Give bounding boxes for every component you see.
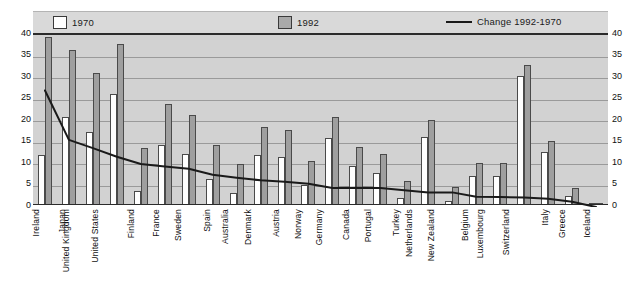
- bar-1970[interactable]: [565, 196, 572, 204]
- bar-1970[interactable]: [278, 157, 285, 204]
- bar-group[interactable]: [201, 35, 225, 204]
- x-axis-tick-label: Turkey: [391, 209, 401, 236]
- bar-1970[interactable]: [589, 203, 596, 204]
- bar-1970[interactable]: [421, 137, 428, 204]
- bar-1992[interactable]: [213, 145, 220, 204]
- bar-1992[interactable]: [452, 187, 459, 204]
- legend-item-1992[interactable]: 1992: [278, 16, 319, 29]
- bar-1992[interactable]: [332, 117, 339, 204]
- x-axis-tick[interactable]: Sweden: [177, 207, 201, 289]
- x-axis-tick-label: Germany: [314, 209, 324, 245]
- bar-group[interactable]: [440, 35, 464, 204]
- bar-group[interactable]: [368, 35, 392, 204]
- legend-item-1970[interactable]: 1970: [53, 16, 94, 29]
- bar-1992[interactable]: [237, 164, 244, 204]
- bar-group[interactable]: [488, 35, 512, 204]
- bar-1992[interactable]: [45, 37, 52, 204]
- bar-1970[interactable]: [182, 154, 189, 204]
- bar-1992[interactable]: [404, 181, 411, 204]
- legend-item-change[interactable]: Change 1992-1970: [446, 16, 562, 27]
- bar-1970[interactable]: [469, 176, 476, 204]
- bar-1970[interactable]: [373, 173, 380, 204]
- bar-group[interactable]: [153, 35, 177, 204]
- bar-group[interactable]: [273, 35, 297, 204]
- bar-1992[interactable]: [165, 104, 172, 204]
- x-axis-tick[interactable]: United States: [105, 207, 129, 289]
- x-axis-tick[interactable]: Italy: [536, 207, 560, 289]
- bar-1970[interactable]: [517, 76, 524, 204]
- bar-1970[interactable]: [541, 152, 548, 204]
- bar-1970[interactable]: [397, 198, 404, 204]
- bar-1992[interactable]: [428, 120, 435, 204]
- x-axis-tick[interactable]: Portugal: [368, 207, 392, 289]
- y-axis-tick-label: 20: [612, 115, 622, 124]
- bar-group[interactable]: [177, 35, 201, 204]
- bar-1992[interactable]: [117, 44, 124, 204]
- bar-1992[interactable]: [572, 188, 579, 204]
- bar-1970[interactable]: [134, 191, 141, 204]
- y-axis-tick-label: 30: [21, 72, 31, 81]
- white-box-swatch-icon: [53, 16, 67, 29]
- x-axis-tick[interactable]: Iceland: [584, 207, 608, 289]
- bar-1992[interactable]: [285, 130, 292, 204]
- bar-1970[interactable]: [301, 185, 308, 204]
- y-axis-tick-label: 30: [612, 72, 622, 81]
- bar-1970[interactable]: [206, 179, 213, 204]
- bar-group[interactable]: [33, 35, 57, 204]
- bar-group[interactable]: [464, 35, 488, 204]
- x-axis-tick[interactable]: Greece: [560, 207, 584, 289]
- y-axis-tick-label: 25: [612, 93, 622, 102]
- bar-1970[interactable]: [86, 132, 93, 204]
- bar-group[interactable]: [584, 35, 608, 204]
- bar-1970[interactable]: [158, 145, 165, 204]
- bar-1992[interactable]: [356, 147, 363, 204]
- bar-group[interactable]: [320, 35, 344, 204]
- chart-legend: 1970 1992 Change 1992-1970: [33, 11, 608, 34]
- bar-group[interactable]: [344, 35, 368, 204]
- y-axis-tick-label: 15: [612, 136, 622, 145]
- bar-1992[interactable]: [524, 65, 531, 204]
- bar-1970[interactable]: [325, 138, 332, 204]
- bar-1970[interactable]: [38, 155, 45, 204]
- bar-1970[interactable]: [493, 176, 500, 204]
- bar-group[interactable]: [249, 35, 273, 204]
- y-axis-left: 0510152025303540: [5, 33, 31, 205]
- bar-group[interactable]: [81, 35, 105, 204]
- bar-1992[interactable]: [261, 127, 268, 204]
- bar-1992[interactable]: [548, 141, 555, 204]
- bar-group[interactable]: [392, 35, 416, 204]
- bar-1970[interactable]: [349, 166, 356, 204]
- bar-group[interactable]: [105, 35, 129, 204]
- x-axis-tick-label: New Zealand: [426, 209, 436, 261]
- x-axis-tick[interactable]: Finland: [129, 207, 153, 289]
- bar-1992[interactable]: [308, 161, 315, 204]
- bar-1970[interactable]: [230, 193, 237, 204]
- bar-group[interactable]: [536, 35, 560, 204]
- bar-1970[interactable]: [110, 94, 117, 204]
- bar-1970[interactable]: [445, 201, 452, 204]
- bar-1992[interactable]: [380, 154, 387, 204]
- bar-1992[interactable]: [476, 163, 483, 204]
- bar-group[interactable]: [512, 35, 536, 204]
- bar-1992[interactable]: [596, 203, 603, 204]
- y-axis-tick-label: 15: [21, 136, 31, 145]
- bar-1992[interactable]: [93, 73, 100, 204]
- x-axis-tick[interactable]: Switzerland: [512, 207, 536, 289]
- x-axis-tick[interactable]: Denmark: [249, 207, 273, 289]
- x-axis-tick[interactable]: Ireland: [33, 207, 57, 289]
- bar-group[interactable]: [129, 35, 153, 204]
- bar-1992[interactable]: [69, 50, 76, 204]
- x-axis-tick-label: Austria: [271, 209, 281, 237]
- bar-group[interactable]: [225, 35, 249, 204]
- bar-1992[interactable]: [189, 115, 196, 204]
- bar-1970[interactable]: [62, 117, 69, 204]
- bar-1992[interactable]: [500, 163, 507, 204]
- y-axis-tick-label: 0: [26, 201, 31, 210]
- bar-1970[interactable]: [254, 155, 261, 204]
- bar-group[interactable]: [57, 35, 81, 204]
- bar-group[interactable]: [296, 35, 320, 204]
- bar-1992[interactable]: [141, 148, 148, 204]
- bar-group[interactable]: [416, 35, 440, 204]
- bar-group[interactable]: [560, 35, 584, 204]
- x-axis-tick-label: Switzerland: [501, 209, 511, 255]
